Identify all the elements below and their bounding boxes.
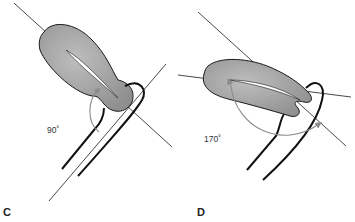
panel-c-illustration (14, 3, 172, 201)
vaginal-wall-anterior (247, 114, 284, 170)
panel-label-c: C (3, 206, 11, 218)
panel-label-d: D (197, 206, 205, 218)
panel-d-illustration (178, 12, 351, 180)
angle-label-d: 170˚ (204, 134, 221, 144)
angle-label-c: 90˚ (47, 125, 59, 135)
uterus-shape (203, 59, 311, 116)
diagram-canvas (0, 0, 355, 222)
vaginal-wall-anterior (62, 108, 104, 169)
